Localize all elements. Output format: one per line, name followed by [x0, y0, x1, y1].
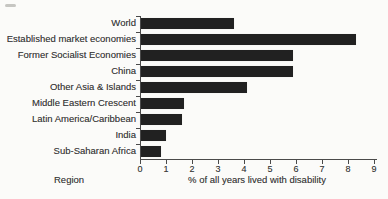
x-axis-tick-label: 5: [263, 164, 277, 174]
bar: [140, 146, 161, 157]
bar: [140, 66, 293, 77]
x-axis-tick-label: 4: [237, 164, 251, 174]
bar: [140, 98, 184, 109]
x-axis-tick-label: 3: [211, 164, 225, 174]
bar: [140, 82, 247, 93]
category-label: China: [0, 63, 136, 79]
bar: [140, 130, 166, 141]
x-axis-tick-label: 9: [367, 164, 381, 174]
category-label: Former Socialist Economies: [0, 47, 136, 63]
category-label: Other Asia & Islands: [0, 79, 136, 95]
bar: [140, 34, 356, 45]
bar: [140, 18, 234, 29]
category-label: India: [0, 127, 136, 143]
category-label: Sub-Saharan Africa: [0, 143, 136, 159]
x-axis-tick-label: 7: [315, 164, 329, 174]
scan-artifact: [5, 4, 16, 7]
x-axis-tick-label: 1: [159, 164, 173, 174]
x-axis-title: % of all years lived with disability: [140, 174, 374, 185]
y-axis-line: [140, 16, 141, 159]
x-axis-tick-label: 0: [133, 164, 147, 174]
category-label: Established market economies: [0, 31, 136, 47]
category-label: Middle Eastern Crescent: [0, 95, 136, 111]
x-axis-tick-label: 6: [289, 164, 303, 174]
bar: [140, 114, 182, 125]
y-axis-title: Region: [54, 174, 84, 185]
bar: [140, 50, 293, 61]
category-label: World: [0, 15, 136, 31]
x-axis-line: [140, 159, 377, 160]
x-axis-tick-label: 2: [185, 164, 199, 174]
scanned-bar-chart-figure: WorldEstablished market economiesFormer …: [0, 0, 388, 199]
category-label: Latin America/Caribbean: [0, 111, 136, 127]
x-axis-tick-label: 8: [341, 164, 355, 174]
